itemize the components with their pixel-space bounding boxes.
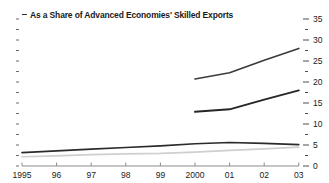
y-tick-label: 25 xyxy=(313,56,322,66)
y-tick-label: 35 xyxy=(313,14,322,24)
x-tick-label: 99 xyxy=(145,170,175,180)
y-tick-label: 0 xyxy=(313,161,318,171)
data-series-group xyxy=(22,48,299,156)
x-tick-label: 02 xyxy=(249,170,279,180)
plot-area xyxy=(0,0,329,183)
y-tick-label: 20 xyxy=(313,77,322,87)
chart-container: As a Share of Advanced Economies' Skille… xyxy=(0,0,329,183)
y-tick-label: 10 xyxy=(313,119,322,129)
y-tick-label: 30 xyxy=(313,35,322,45)
series-line-series-lower-light xyxy=(22,147,299,157)
x-tick-label: 1995 xyxy=(7,170,37,180)
series-line-series-upper xyxy=(195,48,299,79)
series-line-series-lower-dark xyxy=(22,142,299,152)
x-tick-label: 96 xyxy=(42,170,72,180)
y-tick-label: 5 xyxy=(313,140,318,150)
x-tick-label: 2000 xyxy=(180,170,210,180)
y-tick-label: 15 xyxy=(313,98,322,108)
x-tick-label: 03 xyxy=(284,170,314,180)
x-axis-line xyxy=(22,163,299,167)
x-tick-label: 97 xyxy=(76,170,106,180)
x-tick-label: 01 xyxy=(215,170,245,180)
x-tick-label: 98 xyxy=(111,170,141,180)
series-line-series-middle xyxy=(195,90,299,111)
